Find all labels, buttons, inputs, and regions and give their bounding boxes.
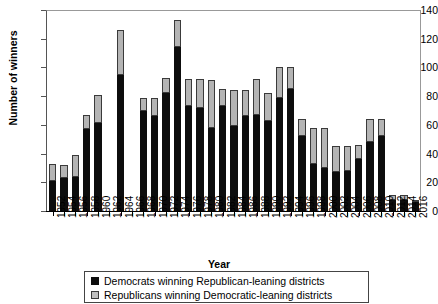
bar-segment-democrats (162, 93, 169, 211)
x-tick-mark (53, 212, 54, 216)
x-tick-label: 1982 (227, 196, 237, 218)
bar-1994 (287, 67, 294, 211)
x-tick-label: 1968 (147, 196, 157, 218)
x-tick-mark (279, 212, 280, 216)
x-tick-mark (75, 212, 76, 216)
bar-segment-republicans (287, 67, 294, 89)
x-tick-mark (257, 212, 258, 216)
x-tick-label: 2014 (408, 196, 418, 218)
x-tick-mark (336, 212, 337, 216)
bar-1974 (174, 20, 181, 211)
x-tick-label: 2012 (397, 196, 407, 218)
x-tick-mark (370, 212, 371, 216)
bar-segment-republicans (60, 165, 67, 178)
x-tick-mark (268, 212, 269, 216)
x-tick-mark (302, 212, 303, 216)
legend-label-republicans: Republicans winning Democratic-leaning d… (104, 290, 332, 301)
x-tick-mark (404, 212, 405, 216)
bar-segment-republicans (151, 98, 158, 117)
bar-1980 (208, 80, 215, 211)
x-tick-label: 2000 (329, 196, 339, 218)
bar-segment-republicans (208, 80, 215, 127)
x-tick-label: 1972 (170, 196, 180, 218)
x-tick-label: 1980 (215, 196, 225, 218)
x-tick-label: 2006 (363, 196, 373, 218)
bar-1982 (219, 89, 226, 211)
x-tick-mark (87, 212, 88, 216)
x-axis-title: Year (0, 258, 438, 270)
bar-segment-republicans (253, 79, 260, 115)
x-tick-label: 1954 (68, 196, 78, 218)
bar-1960 (94, 95, 101, 211)
x-tick-label: 1992 (283, 196, 293, 218)
bar-1978 (196, 79, 203, 211)
bar-segment-republicans (344, 146, 351, 170)
x-tick-mark (132, 212, 133, 216)
bar-segment-republicans (378, 119, 385, 136)
x-tick-label: 1956 (79, 196, 89, 218)
x-tick-mark (64, 212, 65, 216)
x-tick-mark (359, 212, 360, 216)
bar-segment-republicans (230, 90, 237, 126)
x-tick-mark (234, 212, 235, 216)
bar-segment-republicans (174, 20, 181, 47)
bar-1970 (151, 98, 158, 211)
x-tick-mark (177, 212, 178, 216)
bar-segment-republicans (162, 78, 169, 94)
bar-segment-republicans (117, 30, 124, 75)
x-tick-mark (245, 212, 246, 216)
bar-1976 (185, 79, 192, 211)
bar-1990 (264, 93, 271, 211)
x-tick-mark (313, 212, 314, 216)
x-tick-label: 2008 (374, 196, 384, 218)
bar-segment-democrats (174, 47, 181, 211)
x-tick-label: 1960 (102, 196, 112, 218)
bar-segment-republicans (196, 79, 203, 108)
bar-segment-republicans (310, 128, 317, 164)
x-tick-mark (98, 212, 99, 216)
bar-1992 (276, 67, 283, 211)
x-tick-mark (393, 212, 394, 216)
y-axis-title: Number of winners (7, 18, 19, 138)
x-tick-label: 1966 (136, 196, 146, 218)
bar-1968 (140, 98, 147, 211)
x-tick-mark (109, 212, 110, 216)
bar-1984 (230, 90, 237, 211)
x-tick-mark (200, 212, 201, 216)
bar-segment-republicans (219, 89, 226, 106)
x-tick-label: 1994 (295, 196, 305, 218)
x-tick-label: 1958 (91, 196, 101, 218)
bar-segment-democrats (276, 98, 283, 211)
bar-segment-republicans (83, 115, 90, 129)
bar-1986 (242, 90, 249, 211)
bar-1964 (117, 30, 124, 211)
x-tick-label: 2016 (419, 196, 429, 218)
bar-segment-republicans (49, 164, 56, 181)
x-tick-mark (347, 212, 348, 216)
bar-segment-republicans (332, 146, 339, 172)
x-tick-label: 1998 (317, 196, 327, 218)
x-tick-label: 1986 (249, 196, 259, 218)
x-tick-mark (155, 212, 156, 216)
x-tick-label: 1996 (306, 196, 316, 218)
x-tick-label: 2010 (385, 196, 395, 218)
x-tick-label: 1970 (159, 196, 169, 218)
legend-item-democrats: Democrats winning Republican-leaning dis… (91, 274, 362, 288)
x-tick-mark (211, 212, 212, 216)
x-tick-label: 1974 (181, 196, 191, 218)
bar-segment-republicans (321, 128, 328, 168)
legend-label-democrats: Democrats winning Republican-leaning dis… (104, 276, 325, 287)
x-tick-label: 2004 (351, 196, 361, 218)
x-tick-mark (415, 212, 416, 216)
x-tick-mark (291, 212, 292, 216)
bar-segment-democrats (117, 75, 124, 211)
bar-segment-republicans (94, 95, 101, 124)
chart-figure: Number of winners 020406080100120140 195… (0, 0, 438, 304)
bar-segment-republicans (185, 79, 192, 106)
bar-series-container (47, 10, 421, 211)
x-tick-label: 1984 (238, 196, 248, 218)
x-tick-mark (223, 212, 224, 216)
gray-square-icon (91, 291, 99, 299)
x-tick-label: 1964 (125, 196, 135, 218)
x-tick-mark (143, 212, 144, 216)
